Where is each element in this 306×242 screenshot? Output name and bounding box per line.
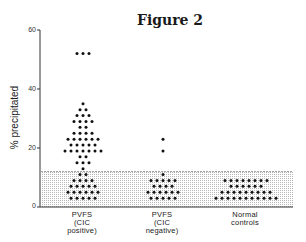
data-point [227,191,230,194]
data-point [82,52,85,55]
data-point [159,191,162,194]
data-point [73,179,76,182]
data-point [159,185,162,188]
data-point [79,155,82,158]
plot-area [0,0,306,242]
data-point [82,102,85,105]
x-category-label-1: PVFS (CIC negative) [132,211,192,235]
data-point [85,179,88,182]
data-point [245,197,248,200]
data-point [165,191,168,194]
x-category-label-2: Normal controls [215,211,275,227]
data-point [88,144,91,147]
data-point [162,179,165,182]
data-point [263,197,266,200]
data-point [236,185,239,188]
data-point [94,185,97,188]
data-point [171,185,174,188]
data-point [97,191,100,194]
data-point [67,138,70,141]
data-point [165,185,168,188]
data-point [94,144,97,147]
data-point [254,179,257,182]
data-point [85,191,88,194]
data-point [79,108,82,111]
data-point [88,52,91,55]
data-point [85,173,88,176]
data-point [94,149,97,152]
data-point [70,197,73,200]
data-point [100,149,103,152]
data-point [85,126,88,129]
data-point [248,179,251,182]
data-point [88,197,91,200]
data-point [82,167,85,170]
data-point [168,197,171,200]
data-point [174,179,177,182]
data-point [230,185,233,188]
data-point [88,161,91,164]
data-point [79,126,82,129]
data-point [70,144,73,147]
data-point [168,179,171,182]
data-point [236,179,239,182]
data-point [275,197,278,200]
data-point [230,179,233,182]
data-point [162,149,165,152]
x-category-label-0: PVFS (CIC positive) [52,211,112,235]
data-point [67,191,70,194]
data-point [85,108,88,111]
data-point [239,191,242,194]
data-point [177,191,180,194]
data-point [233,191,236,194]
data-point [91,191,94,194]
data-point [79,132,82,135]
data-point [73,120,76,123]
data-point [150,179,153,182]
data-point [82,114,85,117]
data-point [254,185,257,188]
data-point [260,179,263,182]
data-point [174,197,177,200]
data-point [82,144,85,147]
data-point [76,144,79,147]
data-point [242,185,245,188]
data-point [73,132,76,135]
data-point [156,179,159,182]
data-point [88,149,91,152]
data-point [73,191,76,194]
data-point [242,179,245,182]
data-point [97,138,100,141]
data-point [147,191,150,194]
data-point [221,191,224,194]
data-point [162,173,165,176]
data-point [94,197,97,200]
data-point [91,120,94,123]
data-point [221,197,224,200]
data-point [239,197,242,200]
data-point [171,191,174,194]
data-point [73,138,76,141]
data-point [251,197,254,200]
data-point [257,197,260,200]
data-point [91,132,94,135]
data-point [269,191,272,194]
data-point [263,191,266,194]
data-point [85,132,88,135]
data-point [153,185,156,188]
data-point [79,191,82,194]
data-point [82,149,85,152]
data-point [76,185,79,188]
data-point [85,138,88,141]
data-point [156,197,159,200]
data-point [82,197,85,200]
data-point [79,120,82,123]
data-point [85,155,88,158]
data-point [76,52,79,55]
data-point [162,138,165,141]
data-point [76,161,79,164]
data-point [76,114,79,117]
data-point [88,114,91,117]
data-point [266,179,269,182]
data-point [257,191,260,194]
